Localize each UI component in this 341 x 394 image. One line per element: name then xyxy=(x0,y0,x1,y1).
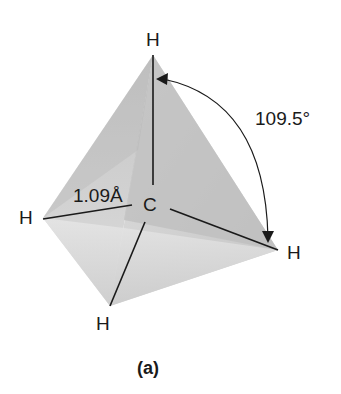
bond-length-label: 1.09Å xyxy=(73,186,123,205)
atom-label-center: C xyxy=(143,195,157,214)
bond-angle-label: 109.5° xyxy=(255,109,310,128)
atom-label-top: H xyxy=(146,30,160,49)
atom-label-bottom: H xyxy=(96,314,110,333)
tetrahedron-figure xyxy=(0,0,341,394)
figure-caption: (a) xyxy=(137,359,159,377)
atom-label-right: H xyxy=(287,243,301,262)
atom-label-left: H xyxy=(19,208,33,227)
